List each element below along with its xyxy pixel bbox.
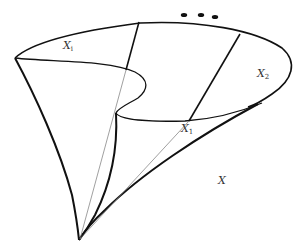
label-x-i: Xi <box>63 40 73 53</box>
left-boundary-curve <box>15 58 79 240</box>
inner-rim-curve <box>15 58 262 121</box>
outer-rim-curve <box>15 22 291 107</box>
label-x-2: X2 <box>257 68 269 81</box>
diagram-canvas: Xi X2 X1 X <box>0 0 304 251</box>
ray-2-thick <box>189 34 240 121</box>
label-x-1: X1 <box>181 123 193 136</box>
ray-1-thick <box>126 22 139 70</box>
label-x: X <box>218 175 226 186</box>
ellipsis-dots <box>181 13 218 19</box>
cone-diagram <box>0 0 304 251</box>
right-boundary-line <box>79 104 258 240</box>
